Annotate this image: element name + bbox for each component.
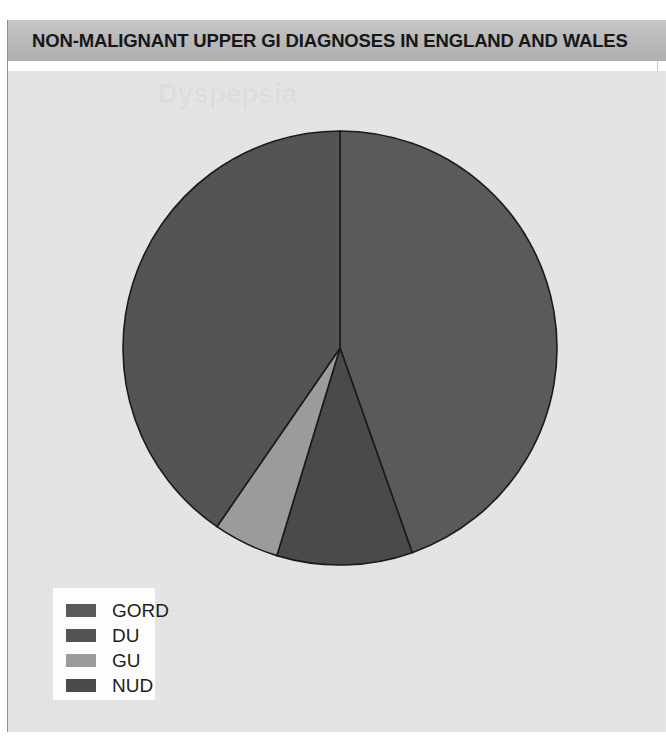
chart-legend: GORD DU GU NUD <box>53 588 155 700</box>
figure-title-bar: NON-MALIGNANT UPPER GI DIAGNOSES IN ENGL… <box>8 20 666 61</box>
chart-body: Dyspepsia GORD DU GU NUD <box>8 71 666 732</box>
legend-item-gu[interactable]: GU <box>53 648 155 673</box>
figure-page: NON-MALIGNANT UPPER GI DIAGNOSES IN ENGL… <box>0 0 666 756</box>
pie-slice-group <box>123 131 557 565</box>
page-title: NON-MALIGNANT UPPER GI DIAGNOSES IN ENGL… <box>32 30 628 52</box>
legend-item-nud[interactable]: NUD <box>53 673 155 698</box>
legend-label-du: DU <box>112 626 139 645</box>
legend-swatch-nud <box>66 679 96 692</box>
legend-item-du[interactable]: DU <box>53 623 155 648</box>
legend-swatch-du <box>66 629 96 642</box>
legend-swatch-gu <box>66 654 96 667</box>
legend-swatch-gord <box>66 604 96 617</box>
legend-item-gord[interactable]: GORD <box>53 598 155 623</box>
legend-label-gord: GORD <box>112 601 169 620</box>
legend-label-nud: NUD <box>112 676 153 695</box>
legend-label-gu: GU <box>112 651 141 670</box>
